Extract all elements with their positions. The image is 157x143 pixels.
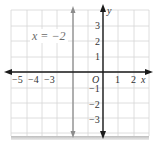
x-tick-neg5: −5: [12, 74, 23, 85]
x-tick-2: 2: [131, 74, 136, 85]
arrow-up-icon: [100, 4, 106, 12]
x-tick-neg4: −4: [28, 74, 39, 85]
x-tick-1: 1: [115, 74, 120, 85]
y-tick-neg1: −1: [89, 83, 100, 94]
y-tick-1: 1: [95, 51, 100, 62]
y-tick-neg3: −3: [89, 114, 100, 125]
x-axis-label: x: [140, 74, 146, 85]
equation-label: x = −2: [31, 29, 66, 43]
x-tick-neg3: −3: [44, 74, 55, 85]
y-tick-3: 3: [95, 20, 100, 31]
plot-shadow: [11, 136, 149, 140]
arrow-up-icon: [71, 6, 76, 13]
coordinate-plane: x = −2 y x O −5 −4 −3 1 2 3 2 1 −1 −2 −3: [0, 0, 157, 143]
y-axis-label: y: [106, 5, 112, 16]
y-tick-neg2: −2: [89, 99, 100, 110]
arrow-left-icon: [4, 69, 12, 75]
y-tick-2: 2: [95, 36, 100, 47]
